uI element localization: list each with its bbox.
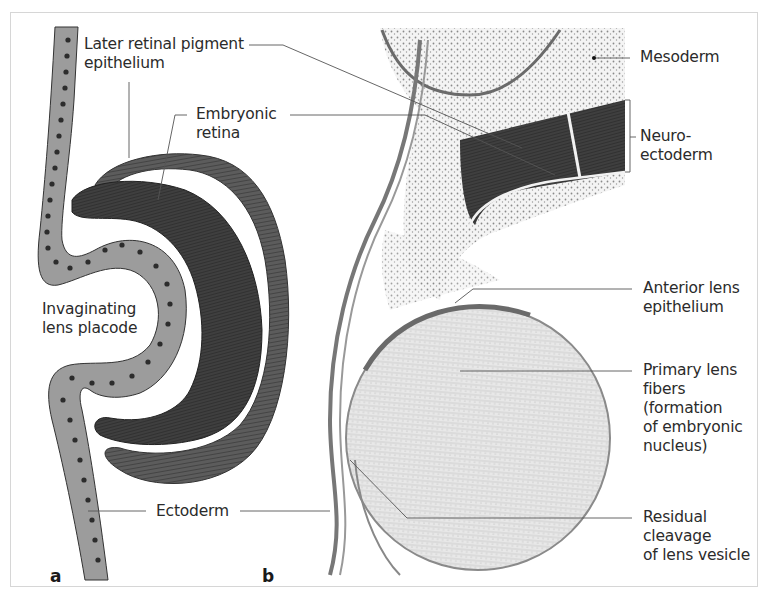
label-embryonic-retina: Embryonic retina [196,105,277,143]
label-mesoderm: Mesoderm [640,48,719,67]
mesoderm-marker-dot [592,56,596,60]
panel-letter-a: a [50,566,61,586]
panel-letter-b: b [262,566,274,586]
label-primary-lens-fibers: Primary lens fibers (formation of embryo… [643,361,743,456]
label-invaginating-lens-placode: Invaginating lens placode [42,300,137,338]
label-neuroectoderm: Neuro- ectoderm [640,127,713,165]
label-residual-cleavage: Residual cleavage of lens vesicle [643,508,750,565]
label-anterior-lens-epithelium: Anterior lens epithelium [643,279,740,317]
label-ectoderm: Ectoderm [156,502,229,521]
label-later-retinal-pigment-epithelium: Later retinal pigment epithelium [84,35,244,73]
panel-b-histology [330,28,625,575]
